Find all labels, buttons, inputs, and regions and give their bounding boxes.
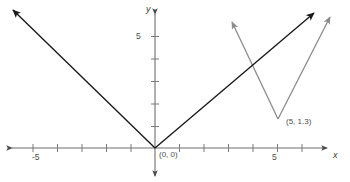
curve-primary (13, 10, 314, 148)
x-tick-label-neg5: -5 (32, 152, 40, 162)
x-axis-label: x (333, 150, 338, 160)
graph-figure: y x 5 -5 5 (0, 0) (5, 1.3) (0, 0, 350, 182)
curve-secondary (232, 17, 330, 119)
y-axis (151, 14, 159, 176)
y-axis-label: y (146, 4, 151, 14)
x-tick-label-5: 5 (272, 152, 277, 162)
y-tick-label-5: 5 (136, 31, 141, 41)
vertex-point-label: (5, 1.3) (286, 117, 311, 126)
origin-point-label: (0, 0) (159, 150, 178, 159)
